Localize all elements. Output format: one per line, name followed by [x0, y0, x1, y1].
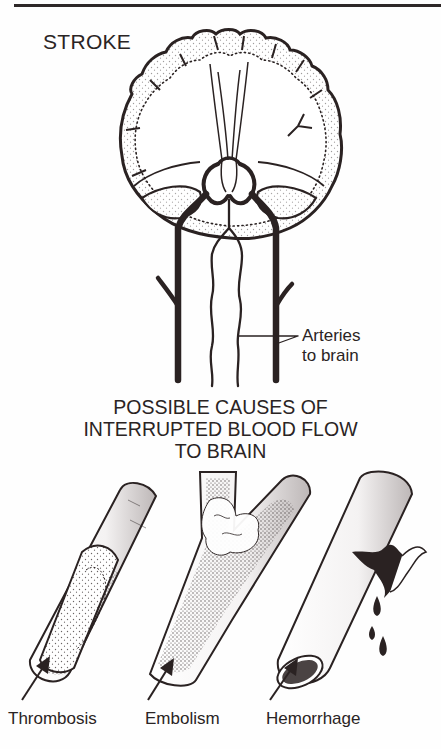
causes-heading-line2: INTERRUPTED BLOOD FLOW	[0, 418, 441, 440]
caption-hemorrhage: Hemorrhage	[266, 709, 361, 729]
stroke-illustration	[0, 0, 441, 749]
causes-heading-line3: TO BRAIN	[0, 440, 441, 462]
caption-embolism: Embolism	[145, 709, 220, 729]
caption-thrombosis: Thrombosis	[8, 709, 97, 729]
causes-heading: POSSIBLE CAUSES OF INTERRUPTED BLOOD FLO…	[0, 396, 441, 462]
thrombosis-vessel	[22, 483, 156, 700]
causes-heading-line1: POSSIBLE CAUSES OF	[0, 396, 441, 418]
arteries-label-line2: to brain	[302, 346, 361, 366]
arteries-label: Arteries to brain	[302, 326, 361, 366]
arteries-label-line1: Arteries	[302, 326, 361, 346]
brain-cross-section	[120, 30, 341, 239]
